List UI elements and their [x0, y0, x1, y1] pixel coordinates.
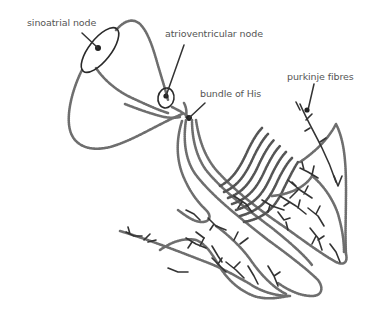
left-ventricle-fibres: [220, 128, 298, 222]
sinoatrial-node: [75, 22, 126, 78]
bundle-of-his-leader-line: [189, 103, 205, 118]
atria-outline: [69, 21, 187, 149]
label-sinoatrial-node: sinoatrial node: [27, 18, 96, 28]
atrioventricular-leader-line: [166, 45, 184, 96]
purkinje-leader-line: [308, 84, 314, 110]
label-atrioventricular-node: atrioventricular node: [165, 29, 263, 39]
label-purkinje-fibres: purkinje fibres: [287, 72, 354, 82]
leader-lines: [82, 33, 314, 118]
label-bundle-of-his: bundle of His: [200, 89, 261, 99]
bundle-of-his: [172, 107, 347, 296]
heart-conduction-diagram: [0, 0, 372, 311]
